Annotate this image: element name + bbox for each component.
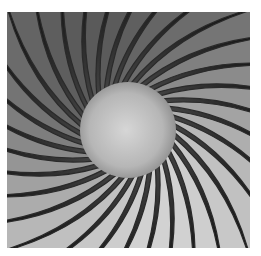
fan-photo bbox=[7, 12, 250, 248]
fan-blades-graphic bbox=[7, 12, 250, 248]
hub bbox=[80, 82, 176, 178]
